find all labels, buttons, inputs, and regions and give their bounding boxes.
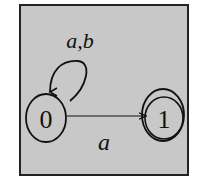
state-1-label: 1 <box>158 105 171 134</box>
self-loop-label: a,b <box>66 28 94 53</box>
transition-label: a <box>98 129 110 155</box>
automaton-diagram: 0 a,b a 1 <box>0 0 199 185</box>
state-0-label: 0 <box>40 105 53 134</box>
